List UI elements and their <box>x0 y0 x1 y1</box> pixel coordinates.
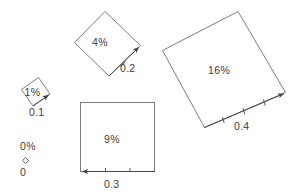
square-group-0: 0% 0 <box>20 140 36 178</box>
square-group-4: 4% 0.2 <box>75 12 141 77</box>
percent-label-1: 1% <box>25 86 41 98</box>
zero-point-marker <box>23 158 29 164</box>
dimension-label-9: 0.3 <box>104 178 120 190</box>
dimension-label-16: 0.4 <box>234 120 250 132</box>
square-group-9: 9% 0.3 <box>81 103 156 191</box>
percent-label-4: 4% <box>92 36 108 48</box>
percent-label-16: 16% <box>208 64 230 76</box>
figure-container: 0% 0 1% 0.1 4% 0.2 <box>0 0 296 196</box>
dimension-label-0: 0 <box>20 166 26 178</box>
percent-label-9: 9% <box>104 133 120 145</box>
dimension-label-1: 0.1 <box>29 106 45 118</box>
dimension-arrow-9 <box>82 168 155 172</box>
dimension-label-4: 0.2 <box>120 62 136 74</box>
percent-label-0: 0% <box>20 140 36 152</box>
square-scaling-diagram: 0% 0 1% 0.1 4% 0.2 <box>0 0 296 196</box>
square-group-1: 1% 0.1 <box>22 78 51 119</box>
square-group-16: 16% 0.4 <box>163 12 286 133</box>
